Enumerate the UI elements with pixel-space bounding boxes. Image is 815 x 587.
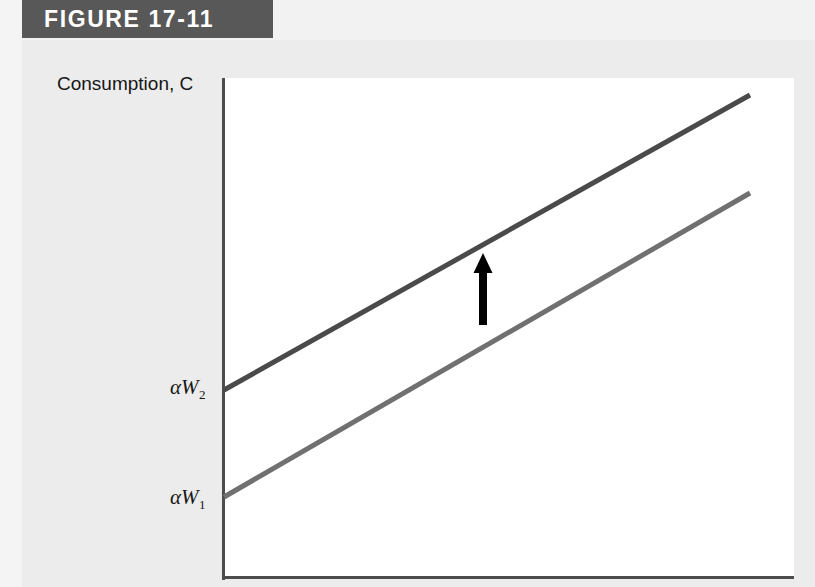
figure-number-banner: FIGURE 17-11 bbox=[22, 0, 273, 38]
alpha-symbol-aw2: α bbox=[170, 375, 181, 399]
w-symbol-aw2: W bbox=[181, 375, 199, 399]
page-left-margin bbox=[0, 0, 22, 587]
alpha-symbol-aw1: α bbox=[170, 485, 181, 509]
intercept-label-aw1: αW1 bbox=[170, 485, 206, 513]
w-symbol-aw1: W bbox=[181, 485, 199, 509]
x-axis-line bbox=[222, 576, 794, 579]
y-axis-title: Consumption, C bbox=[57, 73, 193, 95]
y-axis-line bbox=[222, 78, 225, 580]
intercept-label-aw2: αW2 bbox=[170, 375, 206, 403]
figure-number-label: FIGURE 17-11 bbox=[22, 6, 214, 33]
subscript-aw1: 1 bbox=[199, 497, 206, 512]
subscript-aw2: 2 bbox=[199, 387, 206, 402]
plot-area bbox=[224, 78, 794, 578]
figure-page: FIGURE 17-11 Consumption, C αW2 αW1 bbox=[0, 0, 815, 587]
